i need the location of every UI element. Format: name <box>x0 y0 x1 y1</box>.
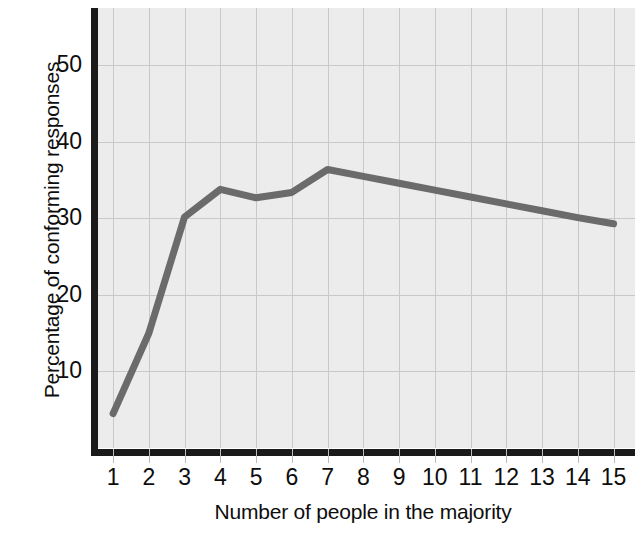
y-axis-tick-label: 10 <box>38 359 82 382</box>
x-axis-tick-label: 6 <box>285 466 298 489</box>
x-axis-tick-mark <box>399 449 400 463</box>
line-chart: Percentage of conforming responses 10203… <box>0 0 635 536</box>
x-axis-tick-mark <box>220 449 221 463</box>
x-axis-tick-mark <box>113 449 114 463</box>
x-axis-tick-label: 5 <box>250 466 263 489</box>
x-axis-tick-label: 9 <box>393 466 406 489</box>
data-series-line <box>97 8 635 448</box>
x-axis-tick-label: 12 <box>494 466 520 489</box>
x-axis-tick-label: 10 <box>422 466 448 489</box>
y-axis-tick-label: 50 <box>38 53 82 76</box>
x-axis-tick-mark <box>363 449 364 463</box>
y-axis-tick-label: 40 <box>38 130 82 153</box>
x-axis-tick-mark <box>328 449 329 463</box>
x-axis-tick-label: 13 <box>529 466 555 489</box>
x-axis-tick-label: 1 <box>107 466 120 489</box>
x-axis-tick-label: 15 <box>601 466 627 489</box>
x-axis-tick-label: 7 <box>321 466 334 489</box>
x-axis-tick-label: 11 <box>459 466 483 489</box>
x-axis-tick-label: 14 <box>565 466 591 489</box>
x-axis-tick-mark <box>185 449 186 463</box>
x-axis-tick-mark <box>578 449 579 463</box>
y-axis-tick-labels: 1020304050 <box>30 0 82 536</box>
x-axis-tick-mark <box>614 449 615 463</box>
x-axis-tick-mark <box>435 449 436 463</box>
x-axis-title: Number of people in the majority <box>91 500 635 524</box>
plot-area <box>91 8 635 448</box>
x-axis-tick-label: 4 <box>214 466 227 489</box>
x-axis-tick-mark <box>471 449 472 463</box>
x-axis-tick-mark <box>506 449 507 463</box>
y-axis-tick-label: 30 <box>38 206 82 229</box>
y-axis-tick-label: 20 <box>38 283 82 306</box>
x-axis-tick-mark <box>542 449 543 463</box>
x-axis-tick-label: 8 <box>357 466 370 489</box>
x-axis-tick-mark <box>256 449 257 463</box>
x-axis-tick-mark <box>149 449 150 463</box>
x-axis-tick-label: 2 <box>142 466 155 489</box>
x-axis-tick-mark <box>292 449 293 463</box>
x-axis-tick-label: 3 <box>178 466 191 489</box>
